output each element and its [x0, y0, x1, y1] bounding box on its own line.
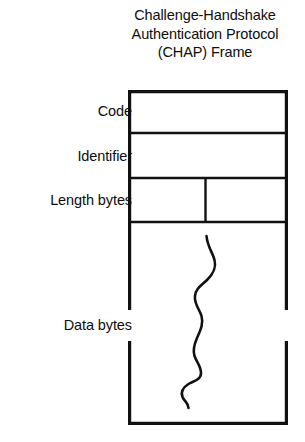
field-label-data-bytes: Data bytes: [64, 317, 132, 333]
field-label-length-bytes: Length bytes: [50, 192, 132, 208]
figure-title: Challenge-Handshake Authentication Proto…: [110, 6, 300, 62]
chap-frame-figure: Challenge-Handshake Authentication Proto…: [0, 0, 305, 442]
field-label-code: Code: [98, 103, 132, 119]
figure-title-line-1: Challenge-Handshake: [110, 6, 300, 25]
figure-title-line-2: Authentication Protocol: [110, 25, 300, 44]
frame-box-svg: [128, 90, 288, 425]
figure-title-line-3: (CHAP) Frame: [110, 43, 300, 62]
data-bytes-squiggle: [182, 236, 215, 408]
frame-diagram-box: [128, 90, 288, 425]
field-label-identifier: Identifier: [77, 148, 132, 164]
